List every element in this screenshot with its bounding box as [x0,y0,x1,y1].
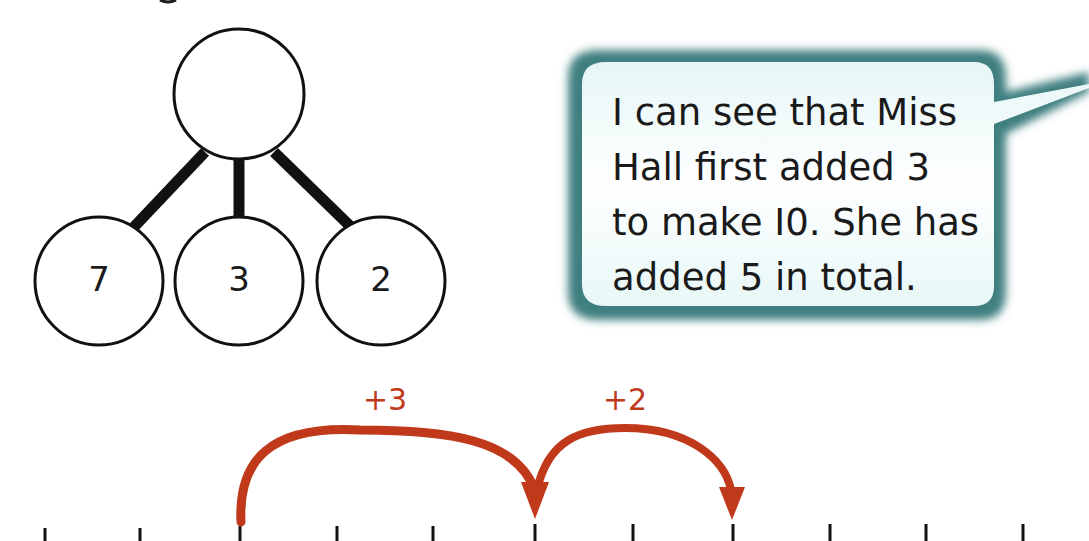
jump-label-plus-3: +3 [345,382,425,417]
jump-arrow-plus-3 [241,430,534,522]
jump-label-plus-2: +2 [585,382,665,417]
arrowhead-icon [719,487,745,520]
jump-arrow-plus-2 [537,428,731,490]
number-line-ticks [45,524,1023,541]
number-line [0,0,1089,541]
